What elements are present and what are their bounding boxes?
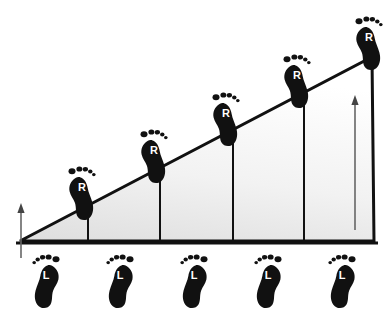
footprint-label: R [78,181,86,193]
footprint-label: L [191,269,198,281]
short-height-arrow [17,203,24,258]
footprint-label: L [117,269,124,281]
left-footprint: L [32,254,59,308]
footprint-label: L [43,269,50,281]
left-footprint: L [328,254,355,308]
diagram-canvas: R R R R R L L L [0,0,391,311]
footprint-label: L [339,269,346,281]
footprint-label: R [293,69,301,81]
ramp-shape [20,57,374,241]
ramp-footprints-svg: R R R R R L L L [0,0,391,311]
footprint-label: R [365,31,373,43]
footprint-label: R [222,107,230,119]
footprint-label: L [265,269,272,281]
left-footprint: L [106,254,133,308]
footprint-label: R [150,144,158,156]
left-footprint: L [254,254,281,308]
left-footprint: L [180,254,207,308]
